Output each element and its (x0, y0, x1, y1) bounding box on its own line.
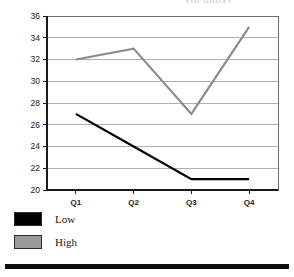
legend-label-low: Low (55, 213, 75, 225)
bottom-divider-rule (5, 264, 289, 269)
svg-text:Q3: Q3 (186, 198, 197, 207)
svg-text:22: 22 (31, 163, 41, 173)
legend-label-high: High (55, 236, 77, 248)
legend-swatch-low (14, 212, 42, 226)
svg-text:Q4: Q4 (244, 198, 255, 207)
svg-text:30: 30 (31, 76, 41, 86)
chart-legend: Low High (14, 209, 134, 255)
svg-text:28: 28 (31, 98, 41, 108)
plot-area: 202224262830323436 Q1Q2Q3Q4 (0, 0, 294, 212)
svg-text:26: 26 (31, 120, 41, 130)
legend-item-low: Low (14, 209, 134, 229)
x-axis-ticks: Q1Q2Q3Q4 (71, 190, 255, 207)
legend-item-high: High (14, 232, 134, 252)
svg-text:34: 34 (31, 33, 41, 43)
svg-text:Q2: Q2 (128, 198, 139, 207)
svg-text:Q1: Q1 (71, 198, 82, 207)
svg-text:20: 20 (31, 185, 41, 195)
legend-swatch-high (14, 235, 42, 249)
y-axis-ticks: 202224262830323436 (31, 11, 47, 195)
svg-text:36: 36 (31, 11, 41, 21)
line-chart: 202224262830323436 Q1Q2Q3Q4 (0, 0, 294, 212)
svg-text:24: 24 (31, 141, 41, 151)
svg-text:32: 32 (31, 54, 41, 64)
